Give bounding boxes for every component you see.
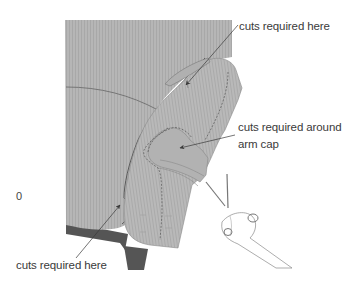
- scissors-blade-2: [227, 174, 228, 208]
- slipcover-illustration: cuts required here cuts required around …: [0, 0, 348, 288]
- chair-drawing: [0, 0, 348, 288]
- annotation-armcap-line2: arm cap: [238, 136, 279, 152]
- annotation-armcap-line1: cuts required around: [238, 119, 341, 135]
- annotation-top: cuts required here: [239, 18, 330, 34]
- annotation-bottom: cuts required here: [16, 257, 107, 273]
- hand-with-scissors: [206, 174, 292, 268]
- stray-mark: 0: [16, 190, 22, 202]
- chair-leg: [124, 246, 148, 270]
- scissors-blade-1: [206, 182, 225, 206]
